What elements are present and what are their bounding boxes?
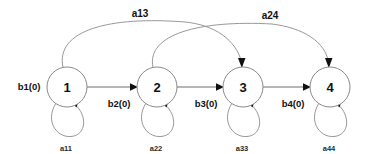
forward-edge-3-4: b4(0) <box>263 83 311 109</box>
self-loop-a11-label: a11 <box>60 144 72 153</box>
node-1-label: 1 <box>63 80 70 95</box>
skip-arc-a13: a13 <box>62 8 245 68</box>
skip-arc-a13-arrowhead <box>238 58 246 68</box>
forward-edge-1-2: b2(0) <box>87 83 138 109</box>
self-loop-a33-path <box>227 103 259 137</box>
forward-edge-2-3-label: b3(0) <box>195 98 218 109</box>
state-transition-diagram: a13 a24 b2(0) b3(0) b4(0) <box>0 0 369 154</box>
node-4[interactable]: 4 <box>310 67 350 107</box>
skip-arc-a24-arrowhead <box>325 58 333 68</box>
self-loop-a33-label: a33 <box>236 144 249 153</box>
self-loop-a22: a22 <box>141 100 173 154</box>
self-loop-a44-label: a44 <box>323 144 336 153</box>
self-loop-a44-path <box>314 103 346 137</box>
diagram-canvas: a13 a24 b2(0) b3(0) b4(0) <box>0 0 369 154</box>
node-4-label: 4 <box>326 80 334 95</box>
node-2[interactable]: 2 <box>137 67 177 107</box>
node-3[interactable]: 3 <box>223 67 263 107</box>
node-1[interactable]: 1 <box>47 67 87 107</box>
node-3-label: 3 <box>239 80 246 95</box>
node-2-label: 2 <box>153 80 160 95</box>
self-loop-a44: a44 <box>314 100 346 154</box>
skip-arc-a24-label: a24 <box>262 10 279 21</box>
forward-edge-3-4-label: b4(0) <box>282 98 305 109</box>
self-loop-a11: a11 <box>51 100 83 154</box>
self-loop-a22-path <box>141 103 173 137</box>
self-loop-a11-path <box>51 103 83 137</box>
forward-edge-2-3: b3(0) <box>177 83 224 109</box>
forward-edge-1-2-label: b2(0) <box>108 98 131 109</box>
self-loop-a33: a33 <box>227 100 259 154</box>
skip-arc-a13-path <box>62 21 241 68</box>
self-loop-a22-label: a22 <box>150 144 163 153</box>
skip-arc-a13-label: a13 <box>132 8 149 19</box>
entry-label: b1(0) <box>18 81 41 92</box>
